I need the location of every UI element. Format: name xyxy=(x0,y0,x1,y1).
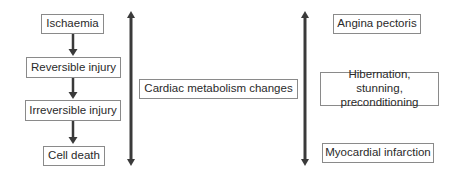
right-double-arrow xyxy=(301,11,309,166)
node-myocardial-infarction: Myocardial infarction xyxy=(322,143,434,163)
node-ischaemia: Ischaemia xyxy=(41,14,104,34)
down-arrow-ischaemia-reversible xyxy=(69,33,78,56)
node-angina-pectoris: Angina pectoris xyxy=(333,14,421,34)
node-cell-death: Cell death xyxy=(43,146,105,166)
left-double-arrow xyxy=(127,11,135,166)
down-arrow-irreversible-celldeath xyxy=(69,121,78,144)
node-hibernation-stunning-preconditioning: Hibernation, stunning, preconditioning xyxy=(320,72,439,106)
node-reversible-injury: Reversible injury xyxy=(26,57,121,78)
node-cardiac-metabolism-changes: Cardiac metabolism changes xyxy=(139,79,298,99)
node-irreversible-injury: Irreversible injury xyxy=(25,100,121,121)
down-arrow-reversible-irreversible xyxy=(69,78,78,99)
